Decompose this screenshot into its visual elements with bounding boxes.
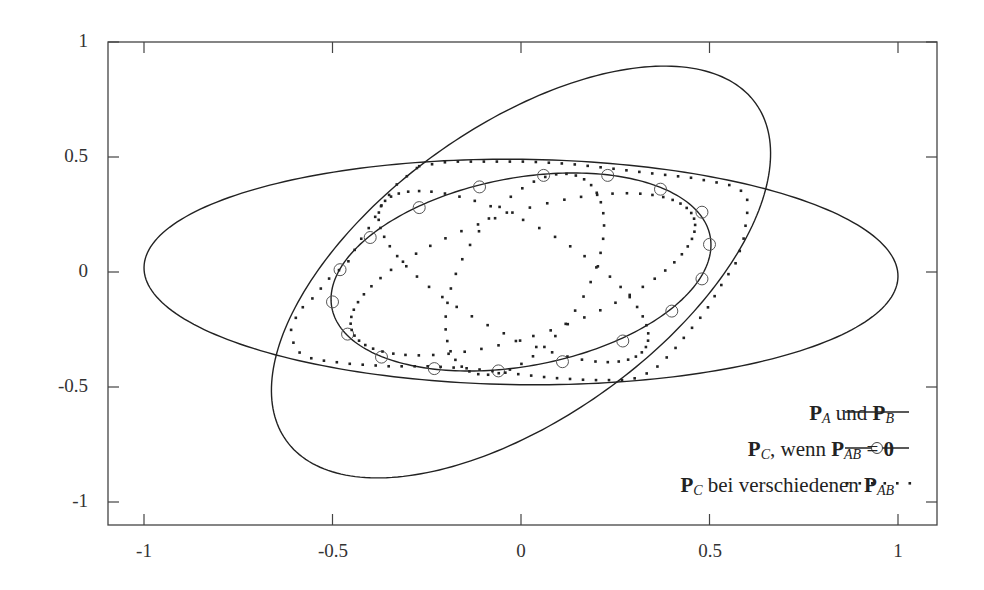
legend-symbol: P <box>831 437 844 461</box>
legend-text: , wenn <box>770 437 831 461</box>
legend-symbol: P <box>680 473 693 497</box>
legend-subscript: C <box>693 483 702 498</box>
legend-symbol: 0 <box>884 437 895 461</box>
legend-text: bei verschiedenen <box>703 473 865 497</box>
x-tick-label: -0.5 <box>303 540 363 562</box>
y-tick-label: 1 <box>28 30 88 52</box>
y-tick-label: -1 <box>28 490 88 512</box>
legend-subscript: C <box>761 447 770 462</box>
y-tick-label: -0.5 <box>28 375 88 397</box>
y-tick-label: 0 <box>28 260 88 282</box>
legend: PA und PB PC, wenn PAB = 0 PC bei versch… <box>680 395 894 503</box>
legend-entry-pc-zero: PC, wenn PAB = 0 <box>680 431 894 467</box>
legend-symbol: P <box>748 437 761 461</box>
legend-subscript: B <box>885 411 894 426</box>
x-tick-label: -1 <box>114 540 174 562</box>
legend-subscript: AB <box>877 483 894 498</box>
legend-subscript: A <box>822 411 831 426</box>
legend-text: = <box>861 437 883 461</box>
legend-subscript: AB <box>844 447 861 462</box>
legend-entry-pc-various: PC bei verschiedenen PAB <box>680 467 894 503</box>
legend-symbol: P <box>873 401 886 425</box>
legend-symbol: P <box>809 401 822 425</box>
x-tick-label: 0.5 <box>680 540 740 562</box>
x-tick-label: 0 <box>491 540 551 562</box>
legend-entry-pa-pb: PA und PB <box>680 395 894 431</box>
x-tick-label: 1 <box>868 540 928 562</box>
legend-text: und <box>831 401 873 425</box>
y-tick-label: 0.5 <box>28 145 88 167</box>
legend-symbol: P <box>864 473 877 497</box>
